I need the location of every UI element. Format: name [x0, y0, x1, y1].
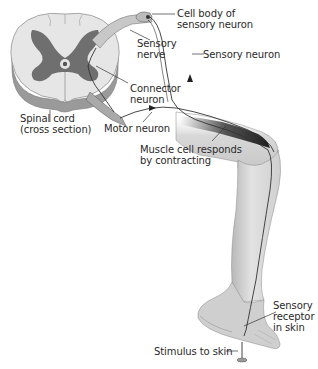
label-sensory-neuron: Sensory neuron [203, 49, 280, 60]
stimulus-pin [237, 342, 247, 362]
spinal-cord [11, 13, 119, 112]
label-stimulus: Stimulus to skin [154, 346, 232, 357]
motor-arrow-icon [149, 105, 156, 111]
label-cell-body: Cell body of sensory neuron [177, 8, 253, 30]
label-motor-neuron: Motor neuron [104, 123, 170, 134]
label-sensory-receptor: Sensory receptor in skin [273, 300, 314, 333]
label-sensory-nerve: Sensory nerve [137, 38, 177, 60]
label-muscle-cell: Muscle cell responds by contracting [140, 144, 242, 166]
sensory-arrow-icon [187, 74, 193, 82]
label-connector-neuron: Connector neuron [130, 83, 181, 105]
label-spinal-cord: Spinal cord (cross section) [20, 113, 91, 135]
